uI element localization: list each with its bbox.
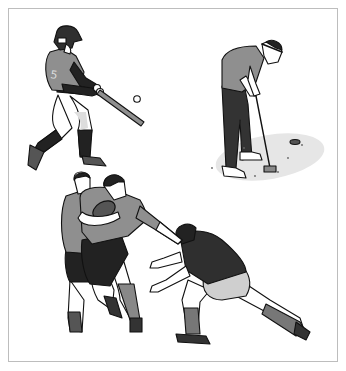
baseball-ball <box>134 96 141 103</box>
rugby-players <box>62 172 311 344</box>
baseball-batter: 5 <box>28 26 144 170</box>
golfer <box>211 40 328 188</box>
rugby-tackler <box>150 224 310 344</box>
rugby-ball-carrier <box>78 175 182 332</box>
sports-illustration: 5 <box>0 0 346 371</box>
